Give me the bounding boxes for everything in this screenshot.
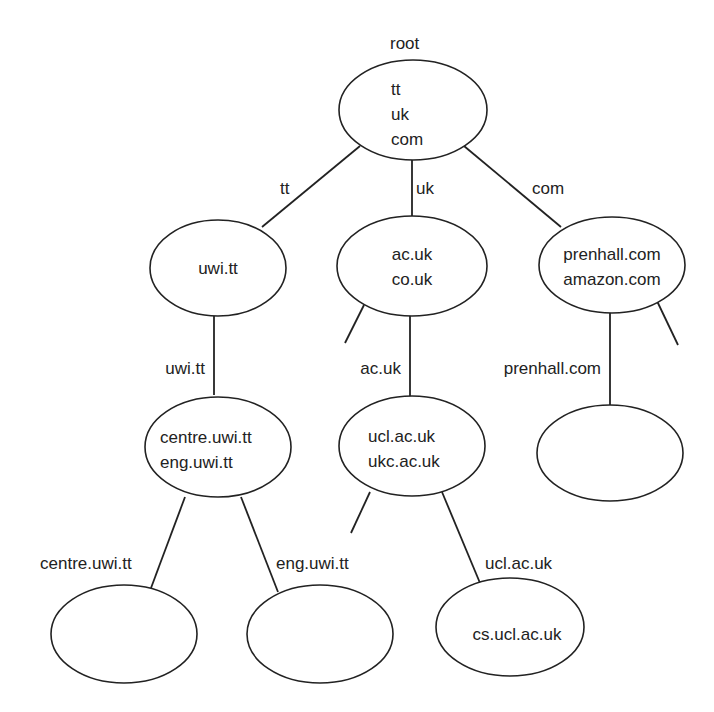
edge-uwi-eng [241,497,278,592]
dns-name-space-diagram: root tt uk com tt uk com uwi.tt ac.uk co… [0,0,714,712]
node-uk: ac.uk co.uk [337,216,487,316]
node-ac-uk-line-1: ucl.ac.uk [368,427,436,446]
edge-label-ucl-ac-uk: ucl.ac.uk [485,554,553,573]
node-com-line-2: amazon.com [563,270,660,289]
edge-label-eng-uwi-tt: eng.uwi.tt [276,554,349,573]
node-uwi-sub: centre.uwi.tt eng.uwi.tt [145,397,291,497]
root-caption: root [390,34,420,53]
edge-com-stub [657,301,678,345]
node-prenhall [537,405,683,501]
node-root-line-1: tt [391,80,401,99]
edge-ac-stub [351,492,370,533]
edge-uwi-centre [151,497,185,588]
edge-uk-stub [345,305,364,343]
edge-label-prenhall-com: prenhall.com [504,359,601,378]
node-ac-uk: ucl.ac.uk ukc.ac.uk [339,396,485,496]
node-com: prenhall.com amazon.com [539,217,685,313]
edge-label-uk: uk [416,179,434,198]
edge-ac-ucl [442,492,480,583]
edge-label-tt: tt [280,179,290,198]
edge-label-centre-uwi-tt: centre.uwi.tt [40,554,132,573]
node-uk-line-2: co.uk [392,270,433,289]
edge-label-ac-uk: ac.uk [360,359,401,378]
node-root: tt uk com [339,60,487,160]
edge-label-com: com [532,179,564,198]
node-eng [247,585,393,683]
node-com-line-1: prenhall.com [563,245,660,264]
node-uk-line-1: ac.uk [392,245,433,264]
node-uwi-sub-line-2: eng.uwi.tt [160,453,233,472]
edge-root-tt [262,146,360,227]
node-centre [51,585,197,683]
node-uwi-sub-line-1: centre.uwi.tt [160,428,252,447]
node-ac-uk-line-2: ukc.ac.uk [368,452,440,471]
node-ucl-line-1: cs.ucl.ac.uk [473,625,562,644]
node-ucl: cs.ucl.ac.uk [436,578,584,676]
node-uwi-tt-line-1: uwi.tt [198,259,238,278]
node-uwi-tt: uwi.tt [150,220,286,316]
node-root-line-2: uk [391,105,409,124]
edge-label-uwi-tt: uwi.tt [165,359,205,378]
node-root-line-3: com [391,130,423,149]
